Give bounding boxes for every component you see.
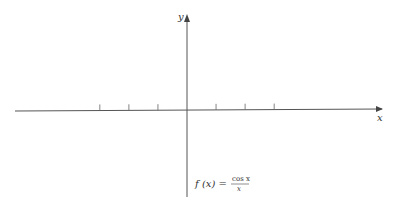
chart: x y f (x) = cos x x: [0, 0, 394, 207]
function-numerator: cos x: [232, 175, 250, 183]
function-label: f (x) = cos x x: [194, 175, 250, 193]
x-axis-label: x: [377, 112, 383, 123]
function-lhs: f (x) =: [194, 178, 227, 189]
y-axis-arrow-icon: [184, 14, 190, 22]
function-denominator: x: [237, 185, 241, 193]
x-axis: [15, 109, 382, 111]
y-axis-label: y: [177, 11, 184, 22]
